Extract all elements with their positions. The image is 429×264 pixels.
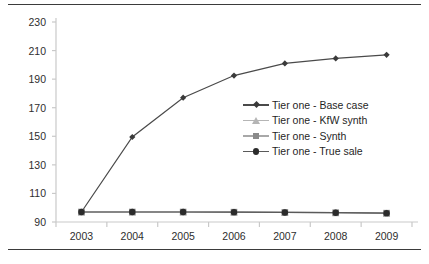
x-tick-label: 2009	[364, 231, 410, 242]
legend-item-true-sale[interactable]: Tier one - True sale	[243, 144, 393, 160]
x-tick-label: 2008	[313, 231, 359, 242]
x-tick-label: 2007	[262, 231, 308, 242]
y-tick-label: 170	[16, 103, 46, 114]
legend-key-triangle-icon	[243, 113, 269, 127]
x-tick-label: 2004	[109, 231, 155, 242]
legend-key-diamond-icon	[243, 98, 269, 112]
x-tick-label: 2006	[211, 231, 257, 242]
y-tick-label: 110	[16, 188, 46, 199]
x-tick-label: 2005	[160, 231, 206, 242]
legend-label: Tier one - True sale	[269, 146, 363, 157]
legend-label: Tier one - Base case	[269, 100, 369, 111]
legend-item-base-case[interactable]: Tier one - Base case	[243, 97, 393, 113]
y-tick-label: 150	[16, 131, 46, 142]
figure-container: 90110130150170190210230 2003200420052006…	[0, 0, 429, 264]
chart-legend: Tier one - Base case Tier one - KfW synt…	[243, 97, 393, 159]
y-tick-label: 90	[16, 217, 46, 228]
y-tick-label: 190	[16, 74, 46, 85]
legend-label: Tier one - KfW synth	[269, 115, 367, 126]
y-tick-label: 130	[16, 160, 46, 171]
legend-item-synth[interactable]: Tier one - Synth	[243, 128, 393, 144]
legend-key-circle-icon	[243, 144, 269, 158]
y-tick-label: 230	[16, 17, 46, 28]
y-tick-label: 210	[16, 46, 46, 57]
legend-item-kfw-synth[interactable]: Tier one - KfW synth	[243, 113, 393, 129]
legend-label: Tier one - Synth	[269, 131, 346, 142]
x-tick-label: 2003	[58, 231, 104, 242]
legend-key-square-icon	[243, 129, 269, 143]
